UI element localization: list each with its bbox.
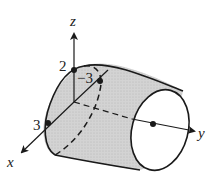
label-2: 2: [59, 58, 67, 74]
y-axis-label: y: [196, 125, 205, 141]
label-3: 3: [33, 117, 41, 133]
z-axis-label: z: [69, 13, 76, 29]
point-x-3: [45, 120, 51, 126]
point-back-center: [150, 121, 156, 127]
label-neg3: −3: [77, 70, 93, 86]
cylinder-diagram: z x y 2 −3 3: [0, 0, 217, 185]
x-axis-label: x: [6, 154, 14, 170]
point-neg3: [97, 78, 103, 84]
